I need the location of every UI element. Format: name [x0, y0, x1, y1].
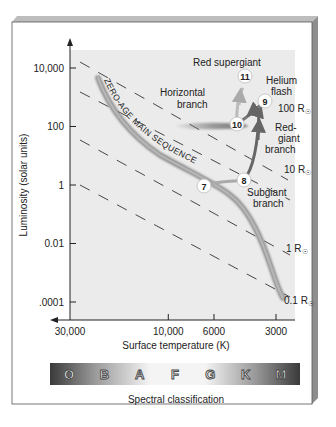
spectral-class-A: A [135, 367, 145, 382]
stage-marker-10: 10 [230, 117, 244, 131]
spectral-class-F: F [171, 367, 179, 382]
svg-text:10: 10 [232, 120, 242, 130]
x-axis-label: Surface temperature (K) [122, 340, 229, 351]
y-tick-label: .0001 [39, 297, 64, 308]
red-giant-arrow [258, 125, 259, 140]
y-tick-label: 0.01 [45, 238, 65, 249]
label-horizontal-branch-1: Horizontal [160, 87, 205, 98]
label-helium-flash-2: flash [271, 86, 292, 97]
label-red-giant-2: giant [278, 133, 300, 144]
svg-text:11: 11 [240, 72, 250, 82]
stage-marker-8: 8 [237, 173, 251, 187]
spectral-label: Spectral classification [128, 394, 224, 405]
y-tick-label: 1 [58, 180, 64, 191]
svg-text:7: 7 [201, 182, 206, 192]
x-tick-label: 30,000 [55, 326, 86, 337]
label-helium-flash-1: Helium [266, 75, 297, 86]
spectral-class-K: K [241, 367, 251, 382]
spectral-class-G: G [205, 367, 215, 382]
agb-arrow [239, 95, 240, 105]
spectral-class-B: B [100, 367, 109, 382]
label-red-giant-1: Red- [275, 122, 297, 133]
y-axis-label: Luminosity (solar units) [18, 134, 29, 237]
label-subgiant-2: branch [253, 198, 284, 209]
hr-diagram-figure: ZERO-AGE MAIN SEQUENCE 7891011 Red super… [0, 0, 336, 427]
svg-text:8: 8 [241, 176, 246, 186]
x-tick-label: 3000 [265, 326, 288, 337]
svg-text:9: 9 [262, 97, 267, 107]
stage-marker-7: 7 [197, 179, 211, 193]
label-red-giant-3: branch [265, 144, 296, 155]
spectral-class-M: M [276, 367, 287, 382]
x-tick-label: 6000 [203, 326, 226, 337]
label-subgiant-1: Subgiant [247, 187, 287, 198]
label-horizontal-branch-2: branch [177, 99, 208, 110]
spectral-class-O: O [64, 367, 74, 382]
stage-marker-9: 9 [258, 94, 272, 108]
label-red-supergiant: Red supergiant [193, 57, 261, 68]
stage-marker-11: 11 [238, 69, 252, 83]
x-tick-label: 10,000 [153, 326, 184, 337]
y-tick-label: 100 [47, 121, 64, 132]
y-tick-label: 10,000 [33, 63, 64, 74]
